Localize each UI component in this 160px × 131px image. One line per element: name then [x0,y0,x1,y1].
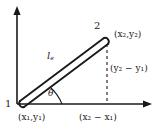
bar-element-diagram: 1 2 (x₁,y₁) (x₂,y₂) (y₂ − y₁) (x₂ − x₁) … [0,0,160,131]
horizontal-difference-label: (x₂ − x₁) [79,113,117,122]
node-2-coordinate-label: (x₂,y₂) [114,30,141,39]
node-2-number: 2 [94,21,100,31]
vertical-difference-label: (y₂ − y₁) [110,64,148,73]
member-length-subscript: e [50,54,54,61]
x-axis [17,100,152,107]
x-axis-arrowhead-icon [143,100,152,107]
bar-member-upper-edge [20,38,104,101]
bar-member [19,38,109,107]
member-length-label: le [47,51,54,61]
node-1-coordinate-label: (x₁,y₁) [18,113,45,122]
bar-member-lower-edge [24,44,108,107]
node-1-number: 1 [5,99,11,109]
angle-theta-label: θ [48,89,53,98]
y-axis [13,6,20,104]
bar-member-end-cap-node2 [104,38,109,44]
y-axis-arrowhead-icon [13,6,20,15]
